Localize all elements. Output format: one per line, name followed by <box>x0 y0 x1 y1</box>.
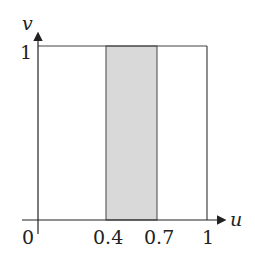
x-tick-0.4: 0.4 <box>93 226 123 248</box>
shaded-region <box>106 46 157 220</box>
x-tick-0.7: 0.7 <box>144 226 174 248</box>
x-tick-0: 0 <box>22 226 34 248</box>
x-tick-1: 1 <box>202 226 214 248</box>
unit-square-diagram: v u 1 0 0.4 0.7 1 <box>0 0 255 268</box>
y-tick-1: 1 <box>20 41 32 63</box>
diagram-canvas: v u 1 0 0.4 0.7 1 <box>0 0 255 268</box>
y-axis-label: v <box>22 12 33 34</box>
x-axis-label: u <box>230 208 242 230</box>
